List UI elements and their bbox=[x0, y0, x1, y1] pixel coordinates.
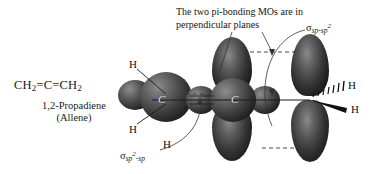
bond-h-top-left bbox=[137, 69, 166, 94]
sigma-sp-sp2-leader bbox=[265, 30, 305, 126]
caption-leader-left bbox=[219, 32, 232, 74]
formula-subscript-2: 2 bbox=[77, 83, 82, 93]
caption-leader-right-arrowhead bbox=[269, 49, 275, 56]
hydrogen-label-top-left: H bbox=[129, 58, 137, 70]
bond-h-bottom-left bbox=[137, 104, 166, 124]
common-name: (Allene) bbox=[14, 111, 134, 124]
hashed-wedge-bond-right bbox=[313, 81, 344, 97]
carbon-label-center: C bbox=[231, 93, 238, 105]
sigma-sp-sp2-label: σsp-sp2 bbox=[306, 22, 331, 35]
hydrogen-label-bottom-left: H bbox=[129, 123, 137, 135]
carbon-label-left: C bbox=[158, 93, 165, 105]
formula-segment-2: CH bbox=[60, 78, 78, 92]
figure-caption: The two pi-bonding MOs are in perpendicu… bbox=[176, 6, 326, 31]
hydrogen-label-right-bottom: H bbox=[351, 103, 359, 115]
formula-segment-1: CH bbox=[14, 78, 32, 92]
sigma-sub-2b: sp bbox=[138, 154, 145, 163]
sigma-sub-1b: sp bbox=[321, 26, 328, 35]
sigma-sp2-sp-label: σsp2-sp bbox=[120, 150, 145, 163]
hydrogen-label-middle: H bbox=[163, 138, 171, 150]
sigma-sp-sp2-arrowhead bbox=[269, 89, 275, 96]
sigma-sup-1b: 2 bbox=[328, 22, 332, 30]
allene-orbital-figure: CH2=C=CH2 1,2-Propadiene (Allene) The tw… bbox=[0, 0, 371, 174]
solid-wedge-bond-right bbox=[310, 100, 347, 113]
hydrogen-label-right-top: H bbox=[348, 79, 356, 91]
molecular-formula: CH2=C=CH2 bbox=[14, 78, 82, 93]
formula-bond: =C= bbox=[36, 78, 59, 92]
